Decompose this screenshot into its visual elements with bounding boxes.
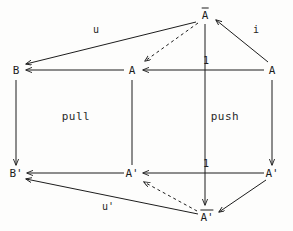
region-label-push: push [211,111,240,122]
edge-abar-to-b [26,22,196,64]
edge-label-one-bottom: 1 [203,159,209,169]
node-a-right: A [269,65,276,76]
node-a-bar-prime: A' [200,210,213,223]
diagram-edges-layer [0,0,293,231]
commutative-diagram: A B A A B' A' A' A' u i 1 1 u' pull push [0,0,293,231]
node-a-prime-middle: A' [125,168,138,179]
edge-label-u-prime: u' [102,202,114,212]
edge-abar-to-amid [145,23,198,61]
edge-aprimert-to-abarprime [219,180,266,212]
node-a-middle: A [129,65,136,76]
node-a-prime-right: A' [265,168,278,179]
edge-label-one-top: 1 [203,56,209,66]
edge-aright-to-abar [216,20,268,62]
node-a-bar: A [202,8,209,21]
edge-label-i: i [253,25,259,35]
region-label-pull: pull [62,111,91,122]
node-b-prime: B' [9,168,22,179]
node-b: B [13,65,20,76]
edge-label-u: u [93,25,99,35]
edge-abarprime-to-aprimemid [144,182,197,211]
